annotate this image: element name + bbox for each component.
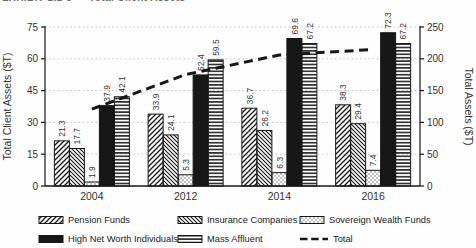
bar xyxy=(208,60,223,186)
bar xyxy=(257,130,272,186)
bar-value-label: 21.3 xyxy=(57,120,67,137)
exhibit-figure: EXHIBIT 2.1-3 — Total Client Assets xyxy=(0,0,476,248)
legend-item-total: Total xyxy=(299,229,353,248)
bar xyxy=(272,173,287,186)
legend-row-2: High Net Worth Individuals Mass Affluent… xyxy=(0,229,476,248)
clipped-exhibit-title-text: EXHIBIT 2.1-3 — Total Client Assets xyxy=(2,0,185,4)
right-axis-title: Total Assets ($T) xyxy=(463,67,475,145)
bar-value-label: 36.7 xyxy=(245,87,255,104)
bar-value-label: 1.9 xyxy=(87,166,97,178)
legend-label-mass-affluent: Mass Affluent xyxy=(207,234,263,244)
grouped-bar-chart: 01530456075050100150200250Total Client A… xyxy=(0,5,476,205)
bar-value-label: 67.2 xyxy=(305,23,315,40)
bar xyxy=(148,114,163,186)
bar-value-label: 6.3 xyxy=(275,157,285,169)
right-axis-tick-label: 50 xyxy=(427,149,439,160)
bar-value-label: 37.9 xyxy=(102,85,112,102)
bar xyxy=(336,105,351,186)
left-axis-tick-label: 15 xyxy=(27,149,39,160)
legend-item-sovereign-wealth-funds: Sovereign Wealth Funds xyxy=(299,210,431,229)
right-axis-tick-label: 150 xyxy=(427,85,444,96)
bar-value-label: 69.6 xyxy=(290,18,300,35)
bar-value-label: 52.4 xyxy=(196,54,206,71)
legend-item-pension-funds: Pension Funds xyxy=(38,210,130,229)
right-axis-tick-label: 200 xyxy=(427,53,444,64)
bar xyxy=(366,170,381,186)
chart-area: 01530456075050100150200250Total Client A… xyxy=(0,5,476,205)
bar-value-label: 72.3 xyxy=(383,12,393,29)
sovereign-wealth-funds-swatch-icon xyxy=(299,215,325,225)
bar-value-label: 42.1 xyxy=(117,76,127,93)
bar xyxy=(242,108,257,186)
chart-legend: Pension Funds Insurance Companies Sovere… xyxy=(0,205,476,248)
legend-item-mass-affluent: Mass Affluent xyxy=(177,229,263,248)
legend-row-1: Pension Funds Insurance Companies Sovere… xyxy=(0,210,476,229)
bar-value-label: 24.1 xyxy=(166,114,176,131)
bar xyxy=(54,141,69,186)
bar xyxy=(351,124,366,186)
bar-value-label: 26.2 xyxy=(260,110,270,127)
left-axis-tick-label: 0 xyxy=(32,181,38,192)
left-axis-title: Total Client Assets ($T) xyxy=(1,53,13,161)
bar xyxy=(69,148,84,186)
left-axis-tick-label: 30 xyxy=(27,117,39,128)
legend-label-insurance-companies: Insurance Companies xyxy=(207,215,297,225)
bar xyxy=(99,106,114,186)
high-net-worth-individuals-swatch-icon xyxy=(38,234,64,244)
bar-value-label: 29.4 xyxy=(353,103,363,120)
right-axis-tick-label: 100 xyxy=(427,117,444,128)
legend-item-high-net-worth-individuals: High Net Worth Individuals xyxy=(38,229,178,248)
legend-label-pension-funds: Pension Funds xyxy=(68,215,130,225)
bar xyxy=(381,33,396,186)
bar-value-label: 17.7 xyxy=(72,128,82,145)
legend-label-sovereign-wealth-funds: Sovereign Wealth Funds xyxy=(329,215,431,225)
bar xyxy=(163,135,178,186)
bar-value-label: 67.2 xyxy=(398,23,408,40)
bar xyxy=(287,38,302,186)
bar-value-label: 7.4 xyxy=(368,154,378,166)
bar-value-label: 59.5 xyxy=(211,39,221,56)
left-axis-tick-label: 60 xyxy=(27,53,39,64)
category-label: 2012 xyxy=(174,190,198,202)
legend-item-insurance-companies: Insurance Companies xyxy=(177,210,297,229)
right-axis-tick-label: 0 xyxy=(427,181,433,192)
bar-value-label: 38.3 xyxy=(338,84,348,101)
legend-label-high-net-worth-individuals: High Net Worth Individuals xyxy=(68,234,178,244)
bar xyxy=(396,44,411,186)
left-axis-tick-label: 45 xyxy=(27,85,39,96)
total-dashed-line-swatch-icon xyxy=(299,234,329,244)
bar-value-label: 5.3 xyxy=(181,159,191,171)
bar xyxy=(193,75,208,186)
left-axis-tick-label: 75 xyxy=(27,22,39,33)
legend-label-total: Total xyxy=(333,234,353,244)
category-label: 2004 xyxy=(80,190,104,202)
category-label: 2014 xyxy=(268,190,292,202)
category-label: 2016 xyxy=(361,190,385,202)
bar xyxy=(84,182,99,186)
bar xyxy=(114,97,129,186)
insurance-companies-swatch-icon xyxy=(177,215,203,225)
right-axis-tick-label: 250 xyxy=(427,22,444,33)
mass-affluent-swatch-icon xyxy=(177,234,203,244)
bar xyxy=(178,175,193,186)
pension-funds-swatch-icon xyxy=(38,215,64,225)
bar xyxy=(302,44,317,186)
bar-value-label: 33.9 xyxy=(151,93,161,110)
